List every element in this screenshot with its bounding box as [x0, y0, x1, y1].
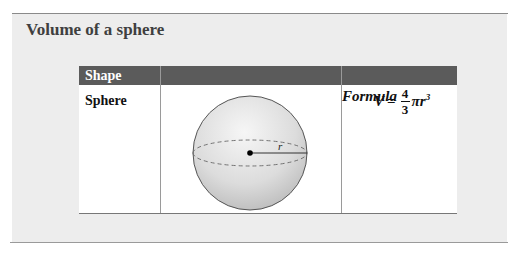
fraction-denominator: 3	[402, 103, 409, 116]
center-point	[247, 150, 253, 156]
formula-fraction: 4 3	[401, 87, 410, 116]
fraction-numerator: 4	[402, 87, 409, 100]
bottom-rule	[10, 242, 508, 243]
sphere-diagram: r	[146, 90, 358, 214]
formula-pi: π	[412, 93, 420, 110]
page-title: Volume of a sphere	[26, 20, 164, 40]
formula-equals: =	[387, 93, 396, 110]
formula-lhs: V	[374, 93, 384, 110]
radius-label: r	[278, 140, 283, 152]
cell-shape: Sphere	[85, 93, 127, 109]
header-shape: Shape	[85, 66, 122, 85]
table-header: Shape Diagram Formula	[79, 66, 457, 85]
cell-formula: V = 4 3 π r 3	[374, 87, 430, 116]
formula-exponent: 3	[426, 92, 431, 102]
